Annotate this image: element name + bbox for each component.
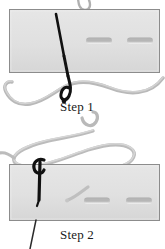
sewing-steps-diagram: Step 1 Step 2 — [0, 0, 165, 249]
step-1-caption: Step 1 — [60, 99, 94, 115]
diagram-canvas — [0, 0, 165, 249]
stitch-hole — [84, 198, 110, 205]
step-2-caption: Step 2 — [60, 227, 94, 243]
thread — [30, 220, 36, 249]
fabric-panel — [10, 165, 160, 221]
thread — [78, 0, 90, 10]
stitch-hole — [126, 198, 152, 205]
stitch-hole — [86, 38, 112, 45]
stitch-hole — [127, 38, 153, 45]
